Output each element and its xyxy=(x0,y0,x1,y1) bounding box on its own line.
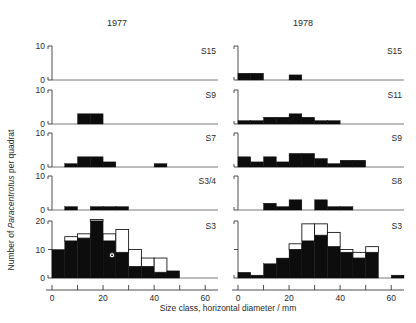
y-tick-label: 10 xyxy=(36,171,46,181)
bar-filled xyxy=(103,241,116,278)
bar-open xyxy=(302,224,315,241)
bar-filled xyxy=(264,157,277,167)
panel-1977-S7: 010S7 xyxy=(36,128,218,172)
x-tick-label: 40 xyxy=(335,293,345,303)
marker-dot xyxy=(111,254,113,256)
bar-filled xyxy=(340,252,353,278)
bar-filled xyxy=(154,272,167,278)
panel-1978-S9: S9 xyxy=(234,133,404,167)
bar-filled xyxy=(276,207,289,210)
x-tick-label: 60 xyxy=(200,293,210,303)
panel-1977-S15: 010S15 xyxy=(36,41,218,85)
bar-filled xyxy=(289,75,302,80)
column-title-1977: 1977 xyxy=(107,18,127,28)
panel-site-label: S3/4 xyxy=(199,176,217,186)
panel-site-label: S3 xyxy=(392,221,403,231)
bar-filled xyxy=(103,207,116,210)
bar-filled xyxy=(264,264,277,278)
panel-1978-S8: S8 xyxy=(234,176,404,210)
panel-site-label: S11 xyxy=(388,90,403,100)
x-axis-col-1977: 0204060 xyxy=(46,285,218,303)
bar-filled xyxy=(90,207,103,210)
bar-open xyxy=(289,244,302,250)
bar-filled xyxy=(327,207,340,210)
bar-filled xyxy=(340,160,353,167)
x-tick-label: 20 xyxy=(98,293,108,303)
bar-filled xyxy=(327,164,340,167)
bar-filled xyxy=(340,207,353,210)
y-tick-label: 20 xyxy=(36,216,46,226)
bar-filled xyxy=(65,164,78,167)
data-point-marker xyxy=(109,253,114,258)
y-tick-label: 0 xyxy=(40,75,45,85)
bar-filled xyxy=(276,258,289,278)
panel-site-label: S9 xyxy=(206,90,217,100)
bar-filled xyxy=(90,221,103,278)
bar-filled xyxy=(90,114,103,124)
bar-filled xyxy=(315,235,328,278)
bar-filled xyxy=(65,241,78,278)
panel-1978-S11: S11 xyxy=(234,90,404,124)
y-tick-label: 0 xyxy=(40,205,45,215)
bar-filled xyxy=(78,157,91,167)
bar-filled xyxy=(251,73,264,80)
y-tick-label: 0 xyxy=(40,273,45,283)
x-axis-col-1978: 0204060 xyxy=(232,285,404,303)
bar-filled xyxy=(289,153,302,167)
panel-site-label: S15 xyxy=(387,46,402,56)
panel-1977-S3-4: 010S3/4 xyxy=(36,171,218,215)
bar-filled xyxy=(302,117,315,124)
bar-open xyxy=(78,234,91,238)
column-title-1978: 1978 xyxy=(293,18,313,28)
bar-filled xyxy=(289,250,302,279)
bar-filled xyxy=(52,250,65,279)
bar-filled xyxy=(327,247,340,278)
bar-filled xyxy=(141,267,154,278)
bar-open xyxy=(340,250,353,253)
histogram-figure: 19771978010S15010S9010S7010S3/401020S3S1… xyxy=(0,0,416,323)
bar-open xyxy=(90,220,103,221)
bar-filled xyxy=(238,157,251,167)
bar-filled xyxy=(366,252,379,278)
panel-1978-S15: S15 xyxy=(234,46,404,80)
x-tick-label: 60 xyxy=(386,293,396,303)
x-tick-label: 0 xyxy=(236,293,241,303)
bar-filled xyxy=(129,267,142,278)
bar-filled xyxy=(238,73,251,80)
bar-open xyxy=(154,258,167,272)
bar-filled xyxy=(78,238,91,278)
bar-filled xyxy=(103,162,116,167)
bar-filled xyxy=(289,114,302,124)
bar-filled xyxy=(116,252,129,278)
bar-filled xyxy=(289,200,302,210)
panel-site-label: S9 xyxy=(392,133,403,143)
bar-open xyxy=(141,258,154,267)
bar-filled xyxy=(116,207,129,210)
bar-open xyxy=(327,232,340,246)
bar-filled xyxy=(167,271,180,278)
figure-container: 19771978010S15010S9010S7010S3/401020S3S1… xyxy=(0,0,416,323)
bar-open xyxy=(129,250,142,267)
y-tick-label: 10 xyxy=(36,85,46,95)
bar-filled xyxy=(238,272,251,278)
x-tick-label: 0 xyxy=(50,293,55,303)
bar-filled xyxy=(353,258,366,278)
bar-open xyxy=(116,230,129,253)
bar-filled xyxy=(302,241,315,278)
bar-filled xyxy=(276,162,289,167)
bar-open xyxy=(366,247,379,253)
bar-filled xyxy=(276,117,289,124)
bar-filled xyxy=(353,160,366,167)
bar-filled xyxy=(327,121,340,124)
bar-open xyxy=(103,234,116,241)
y-tick-label: 10 xyxy=(36,128,46,138)
panel-site-label: S7 xyxy=(206,133,217,143)
y-tick-label: 10 xyxy=(36,41,46,51)
panel-site-label: S15 xyxy=(201,46,216,56)
bar-filled xyxy=(264,203,277,210)
bar-filled xyxy=(302,153,315,167)
bar-filled xyxy=(315,159,328,168)
panel-site-label: S3 xyxy=(206,221,217,231)
panel-1977-S9: 010S9 xyxy=(36,85,218,129)
panel-1978-S3: S3 xyxy=(234,221,404,278)
